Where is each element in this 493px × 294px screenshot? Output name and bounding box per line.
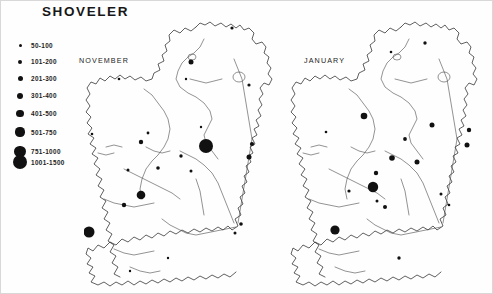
legend-dot-swatch [9, 60, 31, 64]
site-dot [368, 182, 378, 192]
legend-row: 50-100 [9, 37, 87, 54]
site-dot [118, 78, 121, 81]
site-dot [325, 131, 328, 134]
site-dot [129, 270, 131, 272]
site-dot [374, 171, 378, 175]
figure-canvas: SHOVELER 50-100101-200201-300301-400401-… [0, 0, 493, 294]
legend-dot-icon [16, 110, 24, 118]
distribution-map-november [84, 19, 274, 291]
legend-label: 301-400 [31, 92, 57, 99]
legend-label: 751-1000 [31, 148, 61, 155]
site-dot [448, 204, 451, 207]
site-dot [91, 133, 94, 136]
coastline-november [86, 22, 272, 286]
site-dot [397, 256, 400, 259]
legend-label: 101-200 [31, 58, 57, 65]
site-dot [389, 155, 395, 161]
site-dot [361, 113, 368, 120]
site-dot [139, 140, 143, 144]
site-dot [383, 205, 387, 209]
legend-dot-swatch [9, 127, 31, 136]
site-dot [403, 137, 407, 141]
legend-dot-swatch [9, 110, 31, 118]
site-dot [147, 132, 150, 135]
site-dot [167, 257, 169, 259]
figure-title: SHOVELER [42, 4, 129, 19]
legend-dot-icon [13, 155, 27, 169]
site-dot [247, 83, 250, 86]
legend-dot-icon [18, 60, 22, 64]
legend-dot-icon [15, 127, 24, 136]
site-dot [347, 189, 350, 192]
legend-dot-swatch [9, 44, 31, 47]
legend-label: 201-300 [31, 75, 57, 82]
legend-dot-icon [19, 44, 22, 47]
site-dot [239, 222, 243, 226]
legend-label: 401-500 [31, 110, 57, 117]
site-dot [185, 78, 187, 80]
site-dots-november [84, 26, 254, 272]
rivers-and-lakes-january [303, 39, 457, 273]
legend-label: 1001-1500 [31, 159, 65, 166]
site-dot [440, 193, 443, 196]
site-dot [415, 160, 420, 165]
legend-row: 101-200 [9, 54, 87, 71]
site-dot [122, 203, 126, 207]
legend-dot-swatch [9, 155, 31, 169]
legend-dot-swatch [9, 76, 31, 81]
legend-row: 201-300 [9, 70, 87, 87]
site-dot [189, 60, 194, 65]
legend-label: 50-100 [31, 42, 53, 49]
ireland-outline-january [289, 19, 479, 291]
site-dot [190, 170, 193, 173]
site-dot [156, 166, 160, 170]
legend-label: 501-750 [31, 129, 57, 136]
site-dot [247, 155, 252, 160]
site-dot [179, 154, 182, 157]
site-dot [234, 232, 237, 235]
site-dot [137, 191, 146, 200]
legend-row: 401-500 [9, 105, 87, 123]
legend-row: 501-750 [9, 123, 87, 142]
legend-dot-swatch [9, 93, 31, 99]
site-dot [230, 26, 233, 29]
site-dot [376, 200, 379, 203]
ireland-outline-november [84, 19, 274, 291]
flock-size-legend: 50-100101-200201-300301-400401-500501-75… [9, 37, 87, 162]
site-dot [127, 169, 130, 172]
site-dot [330, 225, 339, 234]
site-dot [465, 143, 470, 148]
legend-dot-icon [17, 93, 23, 99]
site-dot [467, 128, 471, 132]
site-dot [250, 142, 254, 146]
rivers-and-lakes-november [98, 39, 252, 273]
site-dot [199, 139, 213, 153]
distribution-map-january [289, 19, 479, 291]
site-dot [430, 123, 435, 128]
coastline-january [291, 22, 477, 286]
site-dot [84, 227, 95, 238]
legend-row: 301-400 [9, 87, 87, 105]
site-dot [423, 41, 426, 44]
site-dot [200, 126, 202, 128]
legend-dot-icon [18, 76, 23, 81]
site-dot [390, 51, 393, 54]
